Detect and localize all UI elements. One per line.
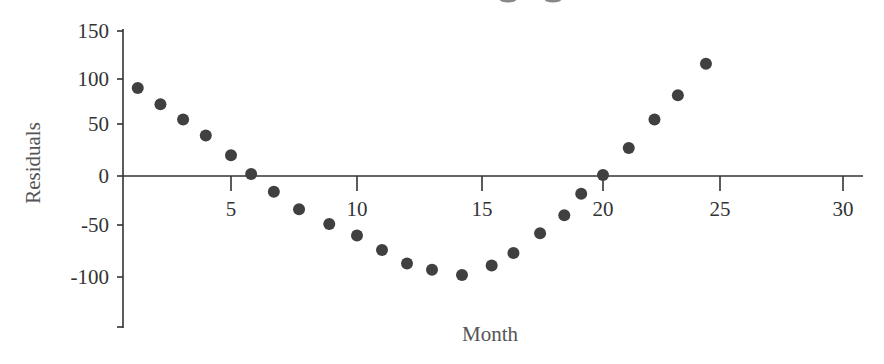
y-axis-ticks: 150100500-50-100 [71,19,124,327]
data-point [132,82,144,94]
data-point [456,269,468,281]
y-tick-label: -100 [71,265,110,289]
x-axis-ticks: 51015202530 [226,176,854,221]
data-point [648,114,660,126]
y-tick-label: 150 [78,19,110,43]
y-tick-label: 100 [78,67,110,91]
y-axis-title: Residuals [21,122,45,204]
data-point [351,229,363,241]
data-point [623,142,635,154]
x-axis-title: Month [462,322,519,346]
y-tick-label: -50 [81,213,109,237]
data-point [672,89,684,101]
data-point [200,129,212,141]
data-point [401,257,413,269]
data-points [132,58,712,281]
data-point [177,114,189,126]
y-tick-label: 50 [88,112,109,136]
data-point [597,169,609,181]
data-point [700,58,712,70]
x-tick-label: 25 [710,197,731,221]
data-point [323,218,335,230]
x-tick-label: 10 [347,197,368,221]
data-point [293,203,305,215]
x-tick-label: 5 [226,197,237,221]
y-tick-label: 0 [99,164,110,188]
data-point [154,98,166,110]
data-point [245,168,257,180]
x-tick-label: 15 [472,197,493,221]
x-tick-label: 30 [833,197,854,221]
data-point [376,244,388,256]
title-fragment [500,0,561,3]
data-point [575,188,587,200]
data-point [225,149,237,161]
data-point [507,247,519,259]
x-tick-label: 20 [593,197,614,221]
data-point [486,260,498,272]
data-point [534,227,546,239]
data-point [558,209,570,221]
residuals-scatter-chart: 150100500-50-100 51015202530 Month Resid… [0,0,884,364]
data-point [426,264,438,276]
data-point [268,186,280,198]
